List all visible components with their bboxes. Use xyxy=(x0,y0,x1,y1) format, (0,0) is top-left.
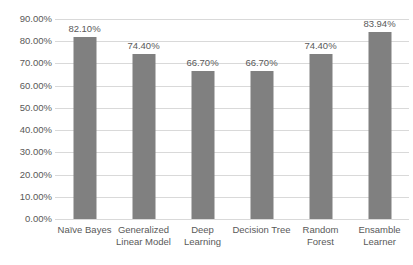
x-axis-category-label: GeneralizedLinear Model xyxy=(114,224,173,248)
y-axis-tick-label: 80.00% xyxy=(0,36,52,46)
x-axis-category-line: Ensamble xyxy=(350,224,409,236)
y-axis-tick-label: 40.00% xyxy=(0,125,52,135)
x-axis-category-line: Deep xyxy=(173,224,232,236)
bar-group: 82.10%Naïve Bayes xyxy=(55,0,114,265)
bar-value-label: 66.70% xyxy=(245,57,277,68)
bar-group: 83.94%EnsambleLearner xyxy=(350,0,409,265)
bar xyxy=(309,54,332,219)
x-axis-category-label: DeepLearning xyxy=(173,224,232,248)
bar-group: 66.70%Decision Tree xyxy=(232,0,291,265)
bar-group: 74.40%RandomForest xyxy=(291,0,350,265)
bar xyxy=(132,54,155,219)
y-axis-tick-label: 10.00% xyxy=(0,192,52,202)
x-axis-category-label: RandomForest xyxy=(291,224,350,248)
bar-value-label: 82.10% xyxy=(68,23,100,34)
y-axis-tick-label: 90.00% xyxy=(0,14,52,24)
bar xyxy=(73,37,96,219)
x-axis-category-line: Forest xyxy=(291,236,350,248)
bars-layer: 82.10%Naïve Bayes74.40%GeneralizedLinear… xyxy=(55,0,409,265)
bar-value-label: 83.94% xyxy=(363,18,395,29)
x-axis-category-line: Decision Tree xyxy=(232,224,291,236)
y-axis-tick-label: 70.00% xyxy=(0,58,52,68)
y-axis: 90.00%80.00%70.00%60.00%50.00%40.00%30.0… xyxy=(0,0,52,265)
x-axis-category-line: Random xyxy=(291,224,350,236)
x-axis-category-line: Linear Model xyxy=(114,236,173,248)
y-axis-tick-label: 50.00% xyxy=(0,103,52,113)
x-axis-category-label: Naïve Bayes xyxy=(55,224,114,236)
y-axis-tick-label: 30.00% xyxy=(0,147,52,157)
y-axis-tick-label: 0.00% xyxy=(0,214,52,224)
bar-group: 66.70%DeepLearning xyxy=(173,0,232,265)
y-axis-tick-label: 60.00% xyxy=(0,81,52,91)
x-axis-category-line: Generalized xyxy=(114,224,173,236)
bar-value-label: 74.40% xyxy=(127,40,159,51)
y-axis-tick-label: 20.00% xyxy=(0,170,52,180)
bar xyxy=(368,32,391,219)
bar xyxy=(191,71,214,219)
bar-value-label: 74.40% xyxy=(304,40,336,51)
x-axis-category-line: Naïve Bayes xyxy=(55,224,114,236)
bar-chart: 90.00%80.00%70.00%60.00%50.00%40.00%30.0… xyxy=(0,0,413,265)
x-axis-category-line: Learner xyxy=(350,236,409,248)
bar xyxy=(250,71,273,219)
x-axis-category-line: Learning xyxy=(173,236,232,248)
x-axis-category-label: Decision Tree xyxy=(232,224,291,236)
bar-value-label: 66.70% xyxy=(186,57,218,68)
bar-group: 74.40%GeneralizedLinear Model xyxy=(114,0,173,265)
x-axis-category-label: EnsambleLearner xyxy=(350,224,409,248)
